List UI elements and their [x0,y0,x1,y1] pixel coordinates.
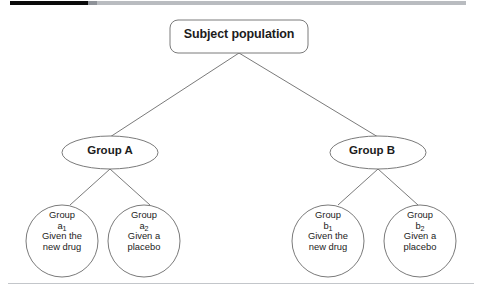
diagram-canvas: Subject population Group A Group B Group… [0,0,482,298]
node-leaf-b2-shape [384,205,456,277]
edge-group-a-to-leaf-2 [110,169,150,205]
edge-group-a-to-leaf-1 [70,169,110,205]
node-group-b-shape [330,136,426,169]
node-leaf-b1-shape [292,205,364,277]
node-leaf-a2-shape [108,205,180,277]
node-leaf-a1-shape [26,205,98,277]
edge-root-to-group-a [110,53,239,137]
edge-root-to-group-b [239,53,378,137]
node-group-a-shape [62,136,158,169]
footer-divider [8,283,474,284]
tree-diagram-graphics [0,0,482,298]
edge-group-b-to-leaf-4 [378,169,418,205]
node-subject-population-shape [170,20,308,53]
edge-group-b-to-leaf-3 [338,169,378,205]
